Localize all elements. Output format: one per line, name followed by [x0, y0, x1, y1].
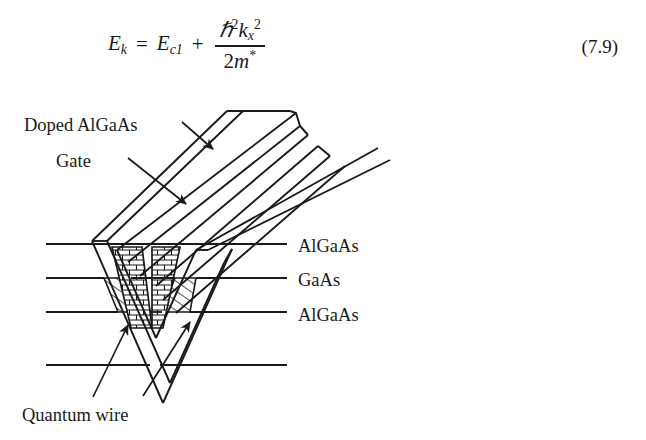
equation-number: (7.9) [582, 36, 618, 58]
fraction-denominator: 2m* [219, 47, 260, 72]
label-layer-algaas-bottom: AlGaAs [298, 305, 359, 325]
fraction-numerator: ℏ2kx2 [215, 18, 265, 45]
equation-fraction: ℏ2kx2 2m* [215, 18, 265, 72]
equation-term1: Ec1 [157, 33, 183, 57]
label-doped-algaas: Doped AlGaAs [24, 115, 138, 135]
figure-quantum-wire: Doped AlGaAs Gate AlGaAs GaAs AlGaAs Qua… [0, 100, 646, 440]
label-gate: Gate [56, 151, 91, 171]
label-layer-algaas-top: AlGaAs [298, 236, 359, 256]
equation-block: Ek = Ec1 + ℏ2kx2 2m* (7.9) [0, 0, 646, 100]
arrow-quantum-wire-left [93, 325, 128, 397]
label-quantum-wire: Quantum wire [22, 405, 128, 425]
arrow-doped-algaas [182, 122, 213, 149]
equals-sign: = [136, 34, 148, 55]
equation-lhs: Ek [108, 33, 127, 57]
label-layer-gaas: GaAs [298, 270, 340, 290]
plus-sign: + [192, 34, 204, 55]
equation-expression: Ek = Ec1 + ℏ2kx2 2m* [108, 18, 267, 72]
